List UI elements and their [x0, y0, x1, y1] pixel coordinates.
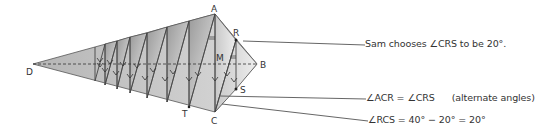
point-T-dot	[188, 106, 191, 109]
label-S: S	[240, 85, 246, 95]
label-M: M	[216, 53, 224, 63]
label-T: T	[181, 109, 188, 119]
annotation-sam-choice: Sam chooses ∠CRS to be 20°.	[365, 38, 506, 49]
alternate-reason: (alternate angles)	[452, 92, 535, 103]
label-C: C	[211, 116, 217, 126]
label-B: B	[260, 60, 266, 70]
label-A: A	[211, 4, 218, 14]
annotation-rcs: ∠RCS = 40° − 20° = 20°	[368, 114, 486, 125]
annotation-alternate-angles: ∠ACR = ∠CRS (alternate angles)	[366, 92, 535, 103]
point-S-dot	[235, 88, 238, 91]
point-R-dot	[235, 39, 238, 42]
alternate-equation: ∠ACR = ∠CRS	[366, 92, 435, 103]
label-D: D	[26, 67, 33, 77]
label-R: R	[233, 28, 239, 38]
